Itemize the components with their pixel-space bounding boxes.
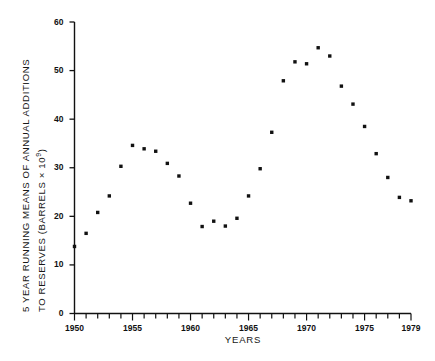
data-point [282,79,285,82]
x-axis-title: YEARS [183,334,303,345]
y-axis-ticks [70,22,75,314]
x-axis-tick-label: 1979 [393,323,429,333]
data-points [73,46,413,248]
data-point [119,165,122,168]
y-axis-tick-label: 30 [42,162,64,172]
data-point [386,176,389,179]
data-point [316,46,319,49]
y-axis-tick-label: 40 [42,114,64,124]
x-axis-tick-label: 1975 [347,323,383,333]
data-point [258,167,261,170]
data-point [351,102,354,105]
y-axis-tick-label: 50 [42,65,64,75]
data-point [142,147,145,150]
y-axis-tick-label: 20 [42,211,64,221]
x-axis-tick-label: 1955 [115,323,151,333]
chart-figure: 5 YEAR RUNNING MEANS OF ANNUAL ADDITIONS… [0,0,435,361]
data-point [293,60,296,63]
data-point [73,245,76,248]
data-point [328,54,331,57]
data-point [340,84,343,87]
plot-area [0,0,435,361]
data-point [200,225,203,228]
x-axis-tick-label: 1970 [289,323,325,333]
data-point [270,131,273,134]
data-point [131,144,134,147]
data-point [189,202,192,205]
axes-lines [75,22,412,314]
x-axis-tick-label: 1960 [173,323,209,333]
data-point [177,174,180,177]
data-point [363,125,366,128]
y-axis-tick-label: 60 [42,17,64,27]
data-point [247,194,250,197]
data-point [96,211,99,214]
data-point [212,219,215,222]
data-point [166,162,169,165]
data-point [398,196,401,199]
data-point [305,62,308,65]
data-point [108,194,111,197]
y-axis-tick-label: 0 [42,308,64,318]
data-point [374,152,377,155]
y-axis-tick-label: 10 [42,259,64,269]
data-point [84,232,87,235]
data-point [154,150,157,153]
x-axis-ticks [75,314,412,321]
x-axis-tick-label: 1965 [231,323,267,333]
data-point [235,217,238,220]
x-axis-tick-label: 1950 [57,323,93,333]
data-point [224,224,227,227]
data-point [409,199,412,202]
